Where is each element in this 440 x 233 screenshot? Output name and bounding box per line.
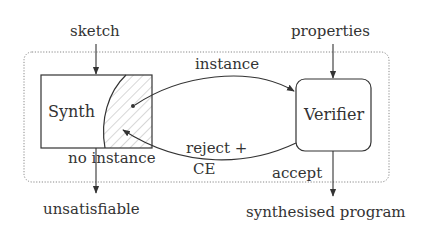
properties-label: properties [291, 22, 370, 40]
unsatisfiable-label: unsatisfiable [43, 200, 140, 218]
synth-label: Synth [48, 102, 95, 121]
accept-label: accept [272, 164, 322, 182]
no-instance-label: no instance [68, 149, 156, 167]
instance-arrow [135, 76, 294, 105]
verifier-node: Verifier [296, 79, 371, 151]
verifier-label: Verifier [303, 105, 364, 124]
synthesised-program-label: synthesised program [246, 203, 406, 221]
ce-label: CE [193, 160, 215, 178]
reject-label: reject + [186, 139, 247, 157]
sketch-label: sketch [70, 22, 120, 40]
cegis-diagram: Synth Verifier sketch properties instanc… [0, 0, 440, 233]
hatched-region [104, 75, 152, 148]
instance-label: instance [195, 55, 259, 73]
instance-point [131, 104, 135, 108]
